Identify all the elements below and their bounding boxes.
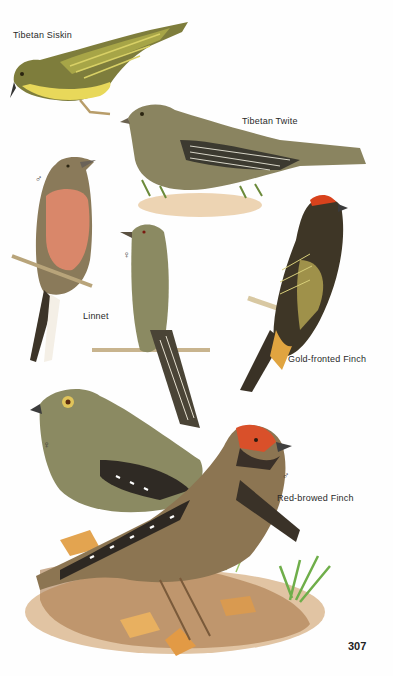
label-red-browed-finch: Red-browed Finch bbox=[277, 493, 354, 503]
label-tibetan-siskin: Tibetan Siskin bbox=[13, 30, 72, 40]
linnet-female-illustration bbox=[92, 225, 210, 429]
female-symbol-red-browed: ♀ bbox=[43, 440, 51, 450]
label-tibetan-twite: Tibetan Twite bbox=[242, 116, 298, 126]
page-number: 307 bbox=[348, 640, 366, 652]
female-symbol-linnet: ♀ bbox=[123, 250, 131, 260]
label-gold-fronted-finch: Gold-fronted Finch bbox=[288, 354, 366, 364]
linnet-male-illustration bbox=[12, 157, 96, 362]
male-symbol-red-browed: ♂ bbox=[282, 471, 290, 481]
bird-illustrations bbox=[0, 0, 393, 676]
field-guide-plate: Tibetan Siskin Tibetan Twite ♂ ♀ Linnet … bbox=[0, 0, 393, 676]
label-linnet: Linnet bbox=[83, 311, 109, 321]
male-symbol-linnet: ♂ bbox=[35, 174, 43, 184]
